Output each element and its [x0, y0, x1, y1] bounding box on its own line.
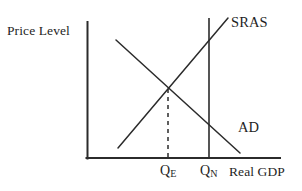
x-axis-label: Real GDP: [229, 165, 285, 179]
x-tick-label-qn-subscript: N: [210, 168, 217, 179]
x-tick-label-qn: QN: [200, 164, 218, 179]
ad-sras-diagram-figure: Price Level SRAS AD QE QN Real GDP: [0, 0, 302, 191]
ad-curve: [116, 40, 240, 153]
ad-curve-label: AD: [238, 120, 259, 135]
x-tick-label-qn-main: Q: [200, 163, 210, 178]
y-axis-label: Price Level: [7, 24, 70, 38]
x-tick-label-qe-main: Q: [160, 163, 170, 178]
sras-curve-label: SRAS: [231, 15, 268, 30]
x-tick-label-qe-subscript: E: [170, 168, 176, 179]
sras-curve: [118, 18, 228, 148]
x-tick-label-qe: QE: [160, 164, 176, 179]
